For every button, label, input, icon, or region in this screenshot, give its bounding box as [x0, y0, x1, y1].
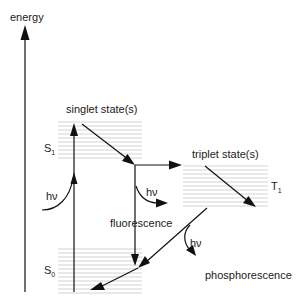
hv-absorb-label: hν	[46, 190, 58, 202]
jablonski-diagram: energy singlet state(s) S1 triplet state…	[0, 0, 302, 302]
phosphorescence-label: phosphorescence	[205, 269, 292, 281]
energy-label: energy	[10, 11, 44, 23]
s1-label: S1	[44, 142, 55, 156]
singlet-header-label: singlet state(s)	[66, 103, 138, 115]
hv-fluor-label: hν	[146, 186, 158, 198]
isc-arrowhead-icon	[169, 161, 182, 170]
phos-arrowhead-lower-icon	[90, 282, 105, 290]
t1-label: T1	[271, 180, 282, 194]
absorption-arrowhead-icon	[70, 123, 78, 136]
photon-fluor-arrowhead-icon	[156, 199, 168, 208]
s1-level-band	[58, 122, 142, 158]
intersystem-crossing-arrow	[135, 161, 182, 170]
photon-in-arrowhead-icon	[71, 172, 78, 184]
t1-relaxation-arrow	[205, 166, 256, 207]
energy-axis: energy	[10, 11, 44, 292]
t1-level-band	[183, 166, 268, 206]
phos-arrowhead-upper-icon	[138, 256, 150, 268]
fluorescence-label: fluorescence	[110, 217, 172, 229]
s0-label: S0	[44, 264, 55, 278]
fluorescence-arrowhead-icon	[131, 254, 139, 266]
triplet-header-label: triplet state(s)	[192, 148, 259, 160]
fluorescence-arrow: hν fluorescence	[110, 165, 172, 266]
hv-phos-label: hν	[190, 237, 202, 249]
axis-arrowhead-icon	[21, 25, 30, 40]
